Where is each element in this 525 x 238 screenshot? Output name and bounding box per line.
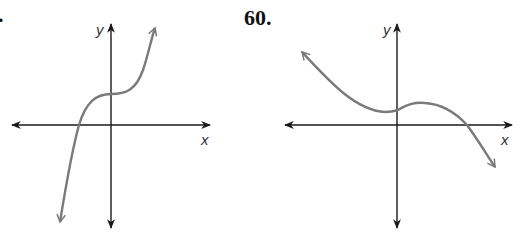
graphs-canvas: x y x y <box>0 0 525 238</box>
graph-2: x y <box>285 21 512 228</box>
y-axis-label-1: y <box>95 21 105 38</box>
graph-1: x y <box>12 21 210 228</box>
y-axis-label-2: y <box>382 21 392 38</box>
curve-2 <box>302 52 495 167</box>
x-axis-label-2: x <box>500 131 509 148</box>
x-axis-label-1: x <box>200 131 209 148</box>
